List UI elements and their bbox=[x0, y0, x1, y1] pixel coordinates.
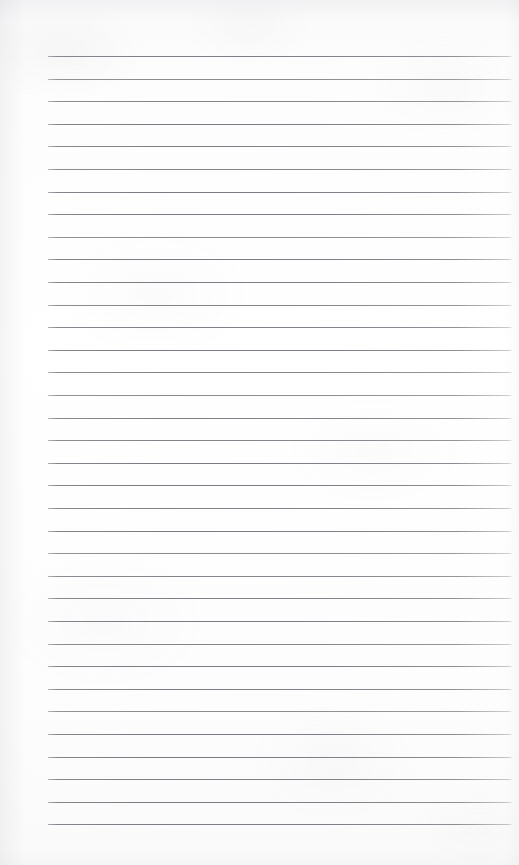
ruled-line bbox=[48, 79, 512, 80]
ruled-line bbox=[48, 666, 512, 667]
ruled-line bbox=[48, 734, 512, 735]
ruled-line bbox=[48, 169, 512, 170]
ruled-line bbox=[48, 192, 512, 193]
ruled-line bbox=[48, 802, 512, 803]
ruled-line bbox=[48, 56, 512, 57]
ruled-line bbox=[48, 327, 512, 328]
ruled-line bbox=[48, 259, 512, 260]
ruled-line bbox=[48, 463, 512, 464]
ruled-line bbox=[48, 711, 512, 712]
ruled-line bbox=[48, 621, 512, 622]
ruled-line bbox=[48, 531, 512, 532]
ruled-line bbox=[48, 305, 512, 306]
ruled-line bbox=[48, 146, 512, 147]
ruled-line bbox=[48, 508, 512, 509]
ruled-line bbox=[48, 395, 512, 396]
ruled-line bbox=[48, 418, 512, 419]
ruled-line bbox=[48, 553, 512, 554]
ruled-lines-group bbox=[0, 0, 519, 865]
ruled-line bbox=[48, 485, 512, 486]
ruled-line bbox=[48, 124, 512, 125]
ruled-line bbox=[48, 576, 512, 577]
ruled-line bbox=[48, 214, 512, 215]
ruled-line bbox=[48, 598, 512, 599]
ruled-line bbox=[48, 237, 512, 238]
scanned-page bbox=[0, 0, 519, 865]
ruled-line bbox=[48, 644, 512, 645]
ruled-line bbox=[48, 350, 512, 351]
ruled-line bbox=[48, 689, 512, 690]
ruled-line bbox=[48, 372, 512, 373]
ruled-line bbox=[48, 282, 512, 283]
ruled-line bbox=[48, 779, 512, 780]
ruled-line bbox=[48, 824, 512, 825]
ruled-line bbox=[48, 440, 512, 441]
ruled-line bbox=[48, 101, 512, 102]
ruled-line bbox=[48, 757, 512, 758]
